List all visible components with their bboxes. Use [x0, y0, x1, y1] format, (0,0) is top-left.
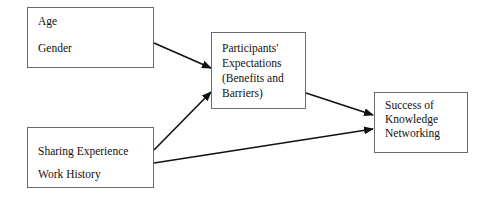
- node-success-knowledge-networking: Success of Knowledge Networking: [374, 92, 468, 153]
- arrow-experience-to-success: [154, 129, 373, 163]
- node-label-line: Success of: [385, 99, 434, 111]
- node-age-gender: Age Gender: [27, 7, 154, 68]
- node-label-line: Networking: [385, 127, 440, 139]
- arrow-experience-to-expectations: [154, 92, 211, 150]
- node-label-line: (Benefits and: [222, 72, 284, 84]
- node-label-line: Knowledge: [385, 113, 438, 125]
- node-label-line: Participants': [222, 42, 278, 54]
- node-label-line: Barriers): [222, 87, 263, 99]
- node-label-age: Age: [38, 15, 57, 27]
- arrow-demographics-to-expectations: [154, 43, 211, 68]
- node-label-gender: Gender: [38, 42, 72, 54]
- node-label-work-history: Work History: [38, 168, 101, 180]
- node-label-line: Expectations: [222, 57, 281, 69]
- node-participants-expectations: Participants' Expectations (Benefits and…: [211, 32, 306, 109]
- node-sharing-experience-work-history: Sharing Experience Work History: [27, 127, 154, 188]
- node-label-sharing-experience: Sharing Experience: [38, 145, 128, 157]
- arrow-expectations-to-success: [306, 93, 373, 115]
